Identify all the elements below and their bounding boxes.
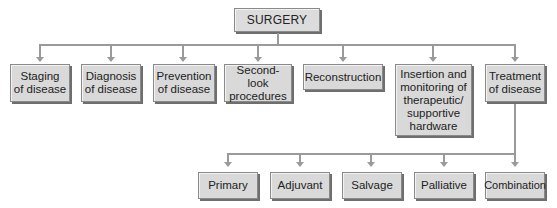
node-staging-of-disease: Staging of disease [10,64,70,102]
arrow-down-icon [224,162,232,167]
node-palliative: Palliative [414,172,474,199]
node-salvage: Salvage [342,172,402,199]
arrow-down-icon [107,57,115,62]
arrow-down-icon [36,57,44,62]
arrow-down-icon [511,162,519,167]
arrow-down-icon [179,57,187,62]
node-label: Treatment of disease [489,70,541,96]
drop-connector [432,44,434,58]
drop-connector [110,44,112,58]
node-label: Combination [484,179,546,192]
node-label: Insertion and monitoring of therapeutic/… [400,68,467,133]
node-label: Palliative [421,179,467,192]
node-label: Adjuvant [278,179,323,192]
node-primary: Primary [198,172,258,199]
node-label: Diagnosis of disease [85,70,137,96]
node-treatment-of-disease: Treatment of disease [485,64,545,102]
node-label: Staging of disease [14,70,66,96]
arrow-down-icon [511,57,519,62]
node-reconstruction: Reconstruction [303,64,383,90]
node-label: Reconstruction [305,71,382,84]
node-adjuvant: Adjuvant [270,172,330,199]
arrow-down-icon [367,162,375,167]
arrow-down-icon [296,162,304,167]
node-label: Second-look procedures [227,64,289,103]
drop-connector [342,44,344,58]
node-combination: Combination [485,172,545,199]
drop-connector [514,44,516,58]
root-node-surgery: SURGERY [234,8,320,32]
node-label: Primary [208,179,248,192]
root-label: SURGERY [247,14,308,27]
arrow-down-icon [339,57,347,62]
node-label: Salvage [351,179,393,192]
node-label: Prevention of disease [157,70,212,96]
node-insertion-monitoring-hardware: Insertion and monitoring of therapeutic/… [395,64,472,136]
drop-connector [257,44,259,58]
node-diagnosis-of-disease: Diagnosis of disease [81,64,141,102]
arrow-down-icon [429,57,437,62]
drop-connector [39,44,41,58]
node-second-look-procedures: Second-look procedures [224,64,292,102]
arrow-down-icon [440,162,448,167]
arrow-down-icon [254,57,262,62]
node-prevention-of-disease: Prevention of disease [153,64,215,102]
drop-connector [182,44,184,58]
treatment-stem-connector [514,104,516,154]
